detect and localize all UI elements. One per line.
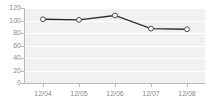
- x-tick-mark-12-05: [79, 84, 80, 87]
- y-tick-label-20: 20: [13, 67, 21, 75]
- data-point-12-08[interactable]: [185, 27, 190, 32]
- x-tick-label-12-04: 12/04: [34, 89, 52, 98]
- data-point-12-07[interactable]: [149, 26, 154, 31]
- x-tick-label-12-05: 12/05: [70, 89, 88, 98]
- line-chart: 120 100 80 60 40 20 0 12/04 12/05 1: [0, 0, 207, 106]
- y-tick-label-120: 120: [9, 4, 21, 12]
- x-tick-mark-12-04: [43, 84, 44, 87]
- x-axis: 12/04 12/05 12/06 12/07 12/08: [0, 89, 207, 103]
- x-tick-label-12-08: 12/08: [178, 89, 196, 98]
- series-layer: [25, 8, 205, 83]
- plot-area: [25, 8, 205, 83]
- x-tick-mark-12-08: [187, 84, 188, 87]
- y-tick-label-40: 40: [13, 54, 21, 62]
- y-axis: 120 100 80 60 40 20 0: [0, 0, 23, 91]
- x-tick-label-12-07: 12/07: [142, 89, 160, 98]
- x-tick-label-12-06: 12/06: [106, 89, 124, 98]
- y-tick-label-100: 100: [9, 17, 21, 25]
- y-tick-label-80: 80: [13, 29, 21, 37]
- x-tick-mark-12-06: [115, 84, 116, 87]
- data-point-12-05[interactable]: [77, 17, 82, 22]
- data-point-12-04[interactable]: [41, 17, 46, 22]
- y-tick-label-60: 60: [13, 42, 21, 50]
- data-point-12-06[interactable]: [113, 13, 118, 18]
- x-tick-mark-12-07: [151, 84, 152, 87]
